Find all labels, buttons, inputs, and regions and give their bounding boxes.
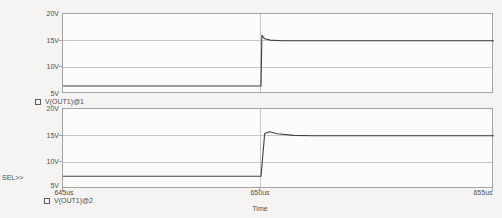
y-tick-label: 15V xyxy=(29,131,59,138)
y-tick-label: 10V xyxy=(29,158,59,165)
x-tick-label: 650us xyxy=(240,189,280,196)
y-tick-mark xyxy=(59,66,62,67)
y-tick-label: 10V xyxy=(29,63,59,70)
trace-svg-1[interactable] xyxy=(63,14,494,94)
time-axis-label: Time xyxy=(252,205,267,212)
y-tick-mark xyxy=(59,161,62,162)
trace-svg-2[interactable] xyxy=(63,109,494,189)
y-tick-label: 15V xyxy=(29,36,59,43)
trace-line-vout1-run2 xyxy=(63,132,494,177)
y-tick-mark xyxy=(59,135,62,136)
legend-label-2: V(OUT1)@2 xyxy=(54,197,93,204)
plot-panel-2[interactable] xyxy=(62,108,493,188)
probe-plot-window: 20V 15V 10V 5V V(OUT1)@1 20V 15V 10V 5V … xyxy=(0,0,502,218)
y-tick-label: 20V xyxy=(29,105,59,112)
x-tick-label: 655us xyxy=(463,189,502,196)
square-marker-icon xyxy=(44,198,50,204)
y-tick-mark xyxy=(59,40,62,41)
x-tick-label: 645us xyxy=(44,189,84,196)
y-tick-label: 5V xyxy=(29,182,59,189)
sel-indicator: SEL>> xyxy=(2,174,23,181)
y-tick-label: 5V xyxy=(29,90,59,97)
trace-line-vout1-run1 xyxy=(63,35,494,86)
legend-trace-2[interactable]: V(OUT1)@2 xyxy=(44,197,93,204)
plot-panel-1[interactable] xyxy=(62,13,493,93)
y-tick-label: 20V xyxy=(29,10,59,17)
